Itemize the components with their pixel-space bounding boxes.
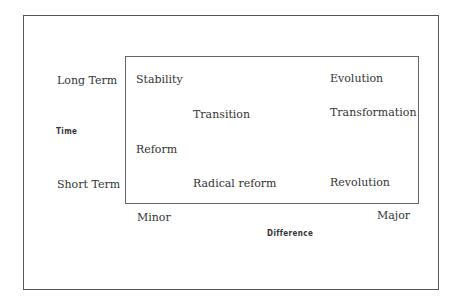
- y-bottom-label: Short Term: [57, 178, 120, 191]
- x-axis-title: Difference: [267, 228, 313, 238]
- cell-reform: Reform: [136, 143, 177, 156]
- cell-stability: Stability: [136, 73, 183, 86]
- y-top-label: Long Term: [57, 74, 117, 87]
- x-left-label: Minor: [137, 211, 171, 224]
- y-axis-title: Time: [56, 126, 77, 136]
- cell-revolution: Revolution: [330, 176, 390, 189]
- cell-transformation: Transformation: [330, 106, 416, 119]
- cell-radical-reform: Radical reform: [193, 177, 277, 190]
- cell-transition: Transition: [193, 108, 250, 121]
- cell-evolution: Evolution: [330, 72, 383, 85]
- x-right-label: Major: [377, 209, 410, 222]
